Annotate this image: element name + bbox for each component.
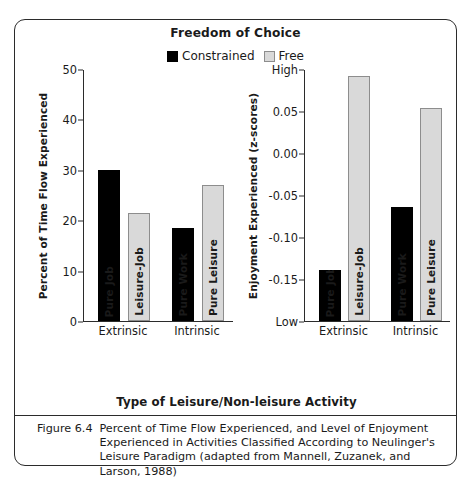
caption-number: Figure 6.4 bbox=[37, 422, 93, 479]
left-yaxis-title: Percent of Time Flow Experienced bbox=[35, 70, 51, 322]
legend-swatch-free-icon bbox=[264, 51, 275, 62]
bar-pure-leisure: Pure Leisure bbox=[202, 185, 224, 321]
bar-pure-leisure: Pure Leisure bbox=[420, 108, 442, 321]
bar-leisure-job: Leisure-Job bbox=[348, 76, 370, 321]
chart-panel-percent-time-flow: Percent of Time Flow Experienced 0102030… bbox=[23, 70, 241, 370]
ytick-label: 10 bbox=[63, 265, 78, 279]
bar-label: Leisure-Job bbox=[349, 196, 369, 316]
legend-label-free: Free bbox=[279, 49, 304, 63]
bar-label: Pure Job bbox=[319, 270, 341, 317]
right-plot-area: Pure JobLeisure-JobPure WorkPure Leisure bbox=[304, 70, 450, 322]
legend-swatch-constrained-icon bbox=[167, 51, 178, 62]
bar-label: Pure Work bbox=[172, 228, 194, 317]
ytick-label: -0.05 bbox=[269, 189, 298, 203]
ytick-label: 0.00 bbox=[273, 147, 298, 161]
xaxis-title: Type of Leisure/Non-leisure Activity bbox=[15, 395, 458, 409]
bar-label: Pure Job bbox=[98, 197, 120, 317]
bar-label: Pure Leisure bbox=[203, 196, 223, 316]
legend: Constrained Free bbox=[15, 49, 456, 63]
bar-label: Pure Work bbox=[391, 207, 413, 317]
right-group-labels: ExtrinsicIntrinsic bbox=[304, 324, 450, 342]
ytick-label: 0.05 bbox=[273, 105, 298, 119]
caption-divider bbox=[15, 415, 456, 416]
bar-pure-work: Pure Work bbox=[172, 228, 194, 321]
legend-label-constrained: Constrained bbox=[182, 49, 255, 63]
right-yaxis-title: Enjoyment Experienced (z-scores) bbox=[245, 70, 261, 322]
legend-entry-constrained: Constrained bbox=[167, 49, 255, 63]
ytick-label: 0 bbox=[70, 315, 77, 329]
ytick-label: -0.10 bbox=[269, 231, 298, 245]
ytick-label: 50 bbox=[63, 63, 78, 77]
bar-leisure-job: Leisure-Job bbox=[128, 213, 150, 321]
ytick-label: High bbox=[272, 63, 298, 77]
left-plot-area: Pure JobLeisure-JobPure WorkPure Leisure bbox=[83, 70, 233, 322]
group-label-intrinsic: Intrinsic bbox=[393, 324, 438, 338]
left-yaxis-ticks: 01020304050 bbox=[53, 70, 83, 322]
figure-frame: Freedom of Choice Constrained Free Perce… bbox=[14, 19, 457, 466]
figure-caption: Figure 6.4 Percent of Time Flow Experien… bbox=[37, 422, 437, 479]
chart-panels: Percent of Time Flow Experienced 0102030… bbox=[15, 70, 458, 370]
bar-label: Pure Leisure bbox=[421, 196, 441, 316]
chart-title: Freedom of Choice bbox=[15, 26, 456, 40]
right-yaxis-ticks: High0.050.00-0.05-0.10-0.15Low bbox=[261, 70, 304, 322]
ytick-label: Low bbox=[276, 315, 298, 329]
bar-pure-work: Pure Work bbox=[391, 207, 413, 321]
bar-pure-job: Pure Job bbox=[319, 270, 341, 321]
ytick-label: 20 bbox=[63, 214, 78, 228]
caption-text: Percent of Time Flow Experienced, and Le… bbox=[100, 422, 437, 479]
chart-panel-enjoyment-zscores: Enjoyment Experienced (z-scores) High0.0… bbox=[243, 70, 458, 370]
left-group-labels: ExtrinsicIntrinsic bbox=[83, 324, 233, 342]
bar-pure-job: Pure Job bbox=[98, 170, 120, 321]
group-label-extrinsic: Extrinsic bbox=[99, 324, 148, 338]
bar-label: Leisure-Job bbox=[129, 213, 149, 316]
legend-entry-free: Free bbox=[264, 49, 304, 63]
ytick-label: 30 bbox=[63, 164, 78, 178]
group-label-extrinsic: Extrinsic bbox=[319, 324, 368, 338]
group-label-intrinsic: Intrinsic bbox=[174, 324, 219, 338]
ytick-label: 40 bbox=[63, 113, 78, 127]
ytick-label: -0.15 bbox=[269, 273, 298, 287]
